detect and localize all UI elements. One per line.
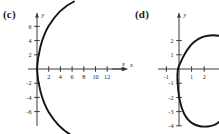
figure-pair-cd: (c): [0, 0, 219, 134]
plot-c-axis-extension: x: [0, 0, 219, 134]
x-axis-extension-arrow-c: [123, 67, 129, 71]
x-axis-extension-label-c: x: [129, 61, 133, 68]
